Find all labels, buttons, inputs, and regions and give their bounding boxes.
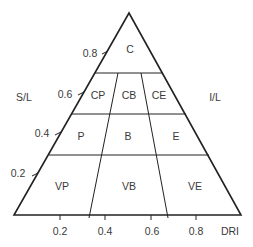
left-tick-label: 0.6 [58,89,73,100]
left-tick-label: 0.2 [11,168,26,179]
region-label-vp: VP [55,181,69,192]
left-tick-label: 0.8 [83,48,98,59]
axis-label-right: I/L [209,92,221,103]
bottom-tick-label: 0.2 [53,226,68,237]
region-label-b: B [124,131,131,142]
region-label-cb: CB [122,90,137,101]
left-tick-label: 0.4 [35,128,50,139]
region-label-cp: CP [91,90,106,101]
bottom-tick-label: 0.4 [98,226,113,237]
bottom-tick-label: 0.6 [145,226,160,237]
region-label-e: E [172,131,179,142]
axis-label-left: S/L [16,92,32,103]
bottom-tick-label: 0.8 [189,226,204,237]
region-label-ce: CE [152,90,167,101]
region-label-ve: VE [188,181,202,192]
region-label-vb: VB [122,181,136,192]
ternary-diagram [0,0,253,247]
region-label-c: C [126,44,134,55]
region-label-p: P [77,131,84,142]
axis-label-bottom: DRI [221,226,239,237]
